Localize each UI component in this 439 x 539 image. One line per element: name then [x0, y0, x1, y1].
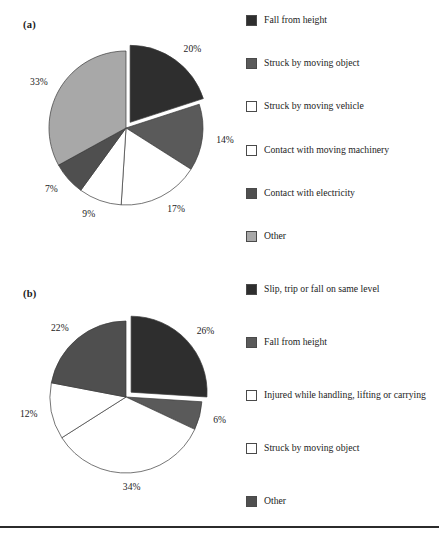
legend-swatch-icon: [246, 390, 257, 401]
legend-item[interactable]: Other: [246, 230, 436, 273]
pie-slice-label: 7%: [45, 183, 58, 194]
pie-chart-b-svg: 26%6%34%12%22%: [38, 305, 218, 505]
pie-slice-label: 33%: [30, 76, 48, 87]
legend-item[interactable]: Struck by moving object: [246, 442, 436, 495]
legend-item-label: Contact with electricity: [264, 187, 355, 200]
legend-swatch-icon: [246, 58, 257, 69]
legend-item-label: Other: [264, 230, 286, 243]
legend-swatch-icon: [246, 337, 257, 348]
figure-container: (a) 20%14%17%9%7%33% Fall from heightStr…: [0, 0, 439, 539]
legend-item[interactable]: Other: [246, 495, 436, 539]
legend-b: Slip, trip or fall on same levelFall fro…: [246, 283, 436, 539]
legend-item-label: Injured while handling, lifting or carry…: [264, 389, 426, 402]
pie-slice[interactable]: [131, 316, 207, 397]
legend-item-label: Slip, trip or fall on same level: [264, 283, 379, 296]
pie-chart-a: 20%14%17%9%7%33%: [38, 30, 218, 235]
pie-chart-a-svg: 20%14%17%9%7%33%: [38, 30, 218, 235]
legend-item-label: Struck by moving object: [264, 442, 360, 455]
pie-slice-label: 6%: [213, 414, 226, 425]
legend-item-label: Fall from height: [264, 336, 327, 349]
pie-slice-label: 20%: [184, 43, 202, 54]
legend-swatch-icon: [246, 15, 257, 26]
pie-slice-label: 26%: [197, 325, 215, 336]
pie-chart-b: 26%6%34%12%22%: [38, 305, 218, 505]
pie-slice-label: 9%: [82, 208, 95, 219]
panel-label-b: (b): [23, 288, 36, 299]
legend-swatch-icon: [246, 145, 257, 156]
pie-slice-label: 34%: [123, 481, 141, 492]
legend-item[interactable]: Slip, trip or fall on same level: [246, 283, 436, 336]
legend-item[interactable]: Fall from height: [246, 14, 436, 57]
legend-swatch-icon: [246, 284, 257, 295]
panel-label-a: (a): [23, 19, 36, 30]
legend-swatch-icon: [246, 101, 257, 112]
legend-a: Fall from heightStruck by moving objectS…: [246, 14, 436, 273]
pie-slice-label: 12%: [20, 408, 38, 419]
legend-swatch-icon: [246, 231, 257, 242]
legend-item-label: Struck by moving object: [264, 57, 360, 70]
legend-item[interactable]: Struck by moving object: [246, 57, 436, 100]
legend-swatch-icon: [246, 496, 257, 507]
legend-item-label: Fall from height: [264, 14, 327, 27]
legend-item[interactable]: Struck by moving vehicle: [246, 100, 436, 143]
legend-swatch-icon: [246, 188, 257, 199]
legend-item[interactable]: Injured while handling, lifting or carry…: [246, 389, 436, 442]
pie-slice-label: 17%: [167, 203, 185, 214]
bottom-divider: [0, 526, 439, 528]
legend-item-label: Contact with moving machinery: [264, 144, 389, 157]
legend-swatch-icon: [246, 443, 257, 454]
legend-item[interactable]: Contact with moving machinery: [246, 144, 436, 187]
legend-item[interactable]: Contact with electricity: [246, 187, 436, 230]
legend-item-label: Struck by moving vehicle: [264, 100, 364, 113]
pie-slice-label: 22%: [51, 322, 69, 333]
pie-slice-label: 14%: [216, 134, 234, 145]
legend-item[interactable]: Fall from height: [246, 336, 436, 389]
legend-item-label: Other: [264, 495, 286, 508]
